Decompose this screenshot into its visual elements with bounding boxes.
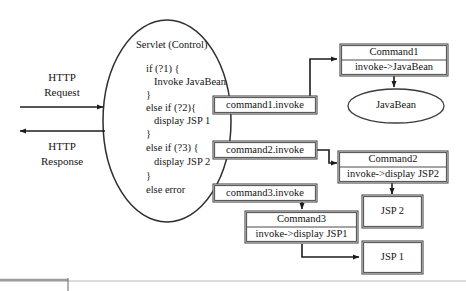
invoke-box-command2-label: command2.invoke	[226, 144, 304, 155]
invoke-box-command3-label: command3.invoke	[226, 187, 304, 198]
command-box-command1: Command1 invoke->JavaBean	[340, 44, 448, 76]
jsp1-label: JSP 1	[381, 251, 404, 262]
command-box-command2: Command2 invoke->display JSP2	[338, 151, 448, 183]
code-line-7: display JSP 2	[154, 156, 210, 167]
invoke-box-command2: command2.invoke	[213, 141, 317, 159]
code-line-3: else if (?2){	[146, 102, 196, 114]
servlet-controller-label: Servlet (Control)	[136, 39, 208, 51]
http-response-label-line2: Response	[41, 155, 83, 167]
command-box-command2-title: Command2	[369, 153, 418, 164]
command-box-command3-title: Command3	[277, 213, 326, 224]
code-line-9: else error	[146, 184, 186, 195]
invoke-box-command1: command1.invoke	[213, 96, 317, 114]
javabean-ellipse: JavaBean	[348, 89, 444, 123]
command-box-command2-action: invoke->display JSP2	[347, 168, 439, 179]
invoke-box-command3: command3.invoke	[213, 184, 317, 202]
http-request-label-line2: Request	[44, 86, 79, 98]
diagram-canvas: Servlet (Control) if (?1) { Invoke JavaB…	[0, 0, 466, 291]
code-line-0: if (?1) {	[146, 63, 180, 75]
jsp2-label: JSP 2	[381, 205, 404, 216]
command-box-command1-title: Command1	[370, 46, 419, 57]
http-request-label-line1: HTTP	[48, 71, 76, 83]
code-line-5: }	[146, 128, 151, 139]
code-line-4: display JSP 1	[154, 115, 210, 126]
code-line-8: }	[146, 170, 151, 181]
code-line-6: else if (?3) {	[146, 142, 199, 154]
jsp1-box: JSP 1	[362, 241, 423, 274]
invoke-box-command1-label: command1.invoke	[226, 99, 304, 110]
jsp2-box: JSP 2	[362, 195, 423, 228]
command-box-command1-action: invoke->JavaBean	[355, 61, 434, 72]
code-line-2: }	[146, 89, 151, 100]
http-response-label-line1: HTTP	[48, 140, 76, 152]
code-line-1: Invoke JavaBean	[154, 76, 227, 87]
command-box-command3: Command3 invoke->display JSP1	[245, 211, 358, 243]
servlet-flow-diagram: Servlet (Control) if (?1) { Invoke JavaB…	[0, 0, 466, 291]
javabean-label: JavaBean	[376, 99, 417, 110]
command-box-command3-action: invoke->display JSP1	[256, 228, 348, 239]
